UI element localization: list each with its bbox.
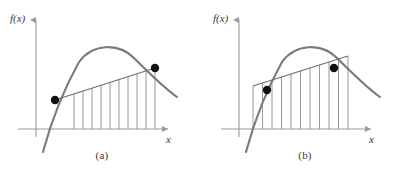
panel-b: f(x) x (b) xyxy=(203,0,407,176)
axes-group-b xyxy=(221,20,371,137)
left-point xyxy=(263,86,271,94)
axes-group-a xyxy=(18,20,168,137)
right-point xyxy=(330,64,338,72)
y-axis-label: f(x) xyxy=(10,12,26,25)
panel-a: f(x) x (a) xyxy=(0,0,204,176)
function-curve xyxy=(246,47,380,152)
left-point xyxy=(51,96,59,104)
y-axis-label: f(x) xyxy=(213,12,229,25)
hatch-group-a xyxy=(74,68,155,129)
secant-line xyxy=(55,68,155,100)
x-axis-label: x xyxy=(165,133,171,145)
figure-root: f(x) x (a) f(x) xyxy=(0,0,407,176)
panel-a-caption: (a) xyxy=(0,149,204,161)
right-point xyxy=(151,64,159,72)
x-axis-label: x xyxy=(368,133,374,145)
panel-b-caption: (b) xyxy=(203,149,407,161)
